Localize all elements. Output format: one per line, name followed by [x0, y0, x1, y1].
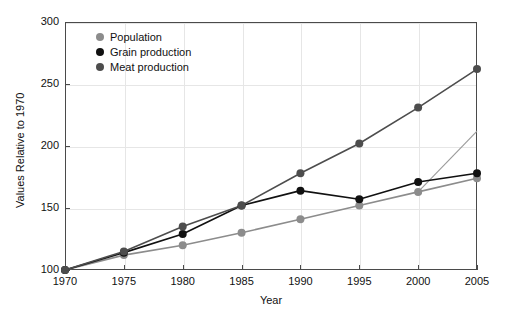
data-point-marker: [355, 195, 363, 203]
data-point-marker: [414, 188, 422, 196]
x-axis-tick-label: 1990: [275, 275, 325, 287]
legend-item-meat-production[interactable]: Meat production: [96, 59, 191, 74]
y-axis-tick: [65, 270, 70, 271]
x-axis-tick-label: 1970: [40, 275, 90, 287]
data-point-marker: [355, 140, 363, 148]
chart-legend: PopulationGrain productionMeat productio…: [96, 29, 191, 74]
legend-item-grain-production[interactable]: Grain production: [96, 44, 191, 59]
legend-marker-icon: [96, 63, 104, 71]
y-axis-tick: [65, 208, 70, 209]
y-axis-tick: [65, 146, 70, 147]
x-axis-tick-label: 1995: [334, 275, 384, 287]
x-axis-tick: [300, 265, 301, 270]
data-point-marker: [296, 169, 304, 177]
data-point-marker: [473, 169, 481, 177]
x-axis-tick: [242, 265, 243, 270]
x-axis-tick-label: 1980: [158, 275, 208, 287]
legend-item-population[interactable]: Population: [96, 29, 191, 44]
y-axis-tick-label: 250: [19, 77, 59, 89]
y-axis-tick: [65, 22, 70, 23]
data-point-marker: [179, 230, 187, 238]
line-chart: 100150200250300 197019751980198519901995…: [0, 0, 514, 313]
x-axis-tick-label: 1985: [217, 275, 267, 287]
x-axis-title: Year: [65, 294, 477, 306]
x-axis-tick: [124, 265, 125, 270]
x-axis-tick: [477, 265, 478, 270]
x-axis-tick-label: 1975: [99, 275, 149, 287]
data-point-marker: [473, 65, 481, 73]
legend-marker-icon: [96, 48, 104, 56]
legend-item-label: Grain production: [110, 46, 191, 58]
data-point-marker: [296, 215, 304, 223]
x-axis-tick: [65, 265, 66, 270]
series-layer: [0, 0, 514, 313]
y-axis-tick-label: 100: [19, 263, 59, 275]
data-point-marker: [238, 229, 246, 237]
x-axis-tick: [183, 265, 184, 270]
y-axis-tick: [65, 84, 70, 85]
x-axis-tick: [418, 265, 419, 270]
data-point-marker: [120, 247, 128, 255]
data-point-marker: [296, 187, 304, 195]
x-axis-tick: [359, 265, 360, 270]
data-point-marker: [414, 104, 422, 112]
legend-item-label: Meat production: [110, 61, 189, 73]
series-line-meat-production: [65, 69, 477, 270]
x-axis-tick-label: 2000: [393, 275, 443, 287]
legend-item-label: Population: [110, 31, 162, 43]
extra-trend-line: [418, 131, 477, 192]
data-point-marker: [179, 223, 187, 231]
data-point-marker: [414, 178, 422, 186]
y-axis-tick-label: 300: [19, 15, 59, 27]
y-axis-title: Values Relative to 1970: [14, 93, 26, 208]
data-point-marker: [179, 241, 187, 249]
legend-marker-icon: [96, 33, 104, 41]
data-point-marker: [238, 202, 246, 210]
x-axis-tick-label: 2005: [452, 275, 502, 287]
